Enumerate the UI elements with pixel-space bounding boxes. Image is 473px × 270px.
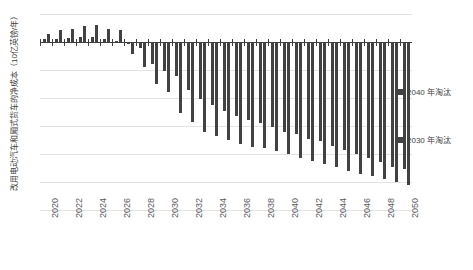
zero-axis-line — [40, 42, 412, 43]
bar — [59, 30, 62, 42]
x-tick-label: 2048 — [386, 198, 396, 218]
bar — [263, 42, 266, 148]
gridline — [40, 182, 412, 183]
bar — [391, 42, 394, 167]
bar — [107, 29, 110, 42]
bar — [383, 42, 386, 179]
legend-swatch-icon — [398, 89, 404, 95]
bar — [323, 42, 326, 164]
bar — [251, 42, 254, 147]
bar — [331, 42, 334, 146]
chart-container: 改用电动汽车和厢式货车的净成本（10亿英镑/年） 20-2-4-6-8-10-1… — [0, 0, 473, 270]
bar — [299, 42, 302, 158]
bar — [367, 42, 370, 158]
x-tick-label: 2038 — [266, 198, 276, 218]
legend-item[interactable]: 2030 年淘汰 — [398, 134, 451, 145]
x-tick-label: 2040 — [290, 198, 300, 218]
bar — [379, 42, 382, 162]
bar — [203, 42, 206, 132]
bar — [187, 42, 190, 90]
x-tick-label: 2032 — [194, 198, 204, 218]
legend-label: 2040 年淘汰 — [407, 86, 451, 97]
legend-label: 2030 年淘汰 — [407, 134, 451, 145]
y-axis-title: 改用电动汽车和厢式货车的净成本（10亿英镑/年） — [8, 0, 19, 207]
x-tick-label: 2028 — [146, 198, 156, 218]
bar — [247, 42, 250, 120]
bar — [271, 42, 274, 127]
bar — [47, 34, 50, 42]
bar — [143, 42, 146, 67]
bar — [175, 42, 178, 76]
x-tick-label: 2044 — [338, 198, 348, 218]
x-tick-label: 2046 — [362, 198, 372, 218]
bar — [151, 42, 154, 64]
bar — [71, 29, 74, 42]
bar — [295, 42, 298, 134]
bar — [95, 25, 98, 42]
gridline — [40, 154, 412, 155]
bar — [83, 26, 86, 42]
bar — [239, 42, 242, 144]
bar — [215, 42, 218, 136]
bar — [319, 42, 322, 141]
bar — [283, 42, 286, 132]
x-tick-label: 2020 — [50, 198, 60, 218]
bar — [287, 42, 290, 154]
bar — [371, 42, 374, 176]
bar — [355, 42, 358, 154]
x-tick-label: 2022 — [74, 198, 84, 218]
bar — [311, 42, 314, 161]
bar — [275, 42, 278, 151]
bar — [259, 42, 262, 123]
bar — [307, 42, 310, 139]
bar — [199, 42, 202, 99]
bar — [395, 42, 398, 182]
x-tick-label: 2026 — [122, 198, 132, 218]
bar — [223, 42, 226, 111]
x-tick-label: 2024 — [98, 198, 108, 218]
bar — [163, 42, 166, 71]
bar — [179, 42, 182, 113]
x-tick-label: 2050 — [410, 198, 420, 218]
bar — [407, 42, 410, 185]
bar — [131, 42, 134, 54]
bar — [347, 42, 350, 171]
legend-item[interactable]: 2040 年淘汰 — [398, 86, 451, 97]
x-tick-label: 2042 — [314, 198, 324, 218]
plot-area: 20-2-4-6-8-10-12 — [40, 14, 412, 210]
bar — [119, 30, 122, 42]
bar — [191, 42, 194, 122]
x-axis-labels: 2020202220242026202820302032203420362038… — [40, 216, 412, 266]
bar — [359, 42, 362, 174]
bar — [343, 42, 346, 150]
x-tick-label: 2034 — [218, 198, 228, 218]
bar — [235, 42, 238, 116]
bar — [335, 42, 338, 167]
bar — [155, 42, 158, 84]
bar — [211, 42, 214, 105]
bar — [403, 42, 406, 169]
legend-swatch-icon — [398, 137, 404, 143]
bar — [167, 42, 170, 92]
bar — [227, 42, 230, 140]
gridline — [40, 14, 412, 15]
x-tick-label: 2036 — [242, 198, 252, 218]
x-tick-label: 2030 — [170, 198, 180, 218]
